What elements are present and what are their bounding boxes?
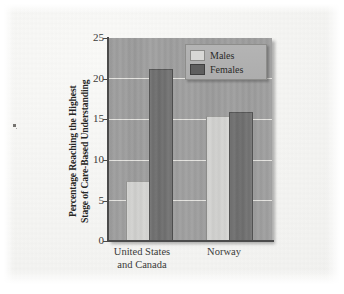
legend-label-females: Females [210,64,243,75]
y-axis-title-line1: Percentage Reaching the Highest [67,48,79,254]
bar-males-united-states-and-canada [126,181,150,241]
legend-swatch-females-icon [190,64,205,75]
legend-entry-females: Females [190,62,262,76]
y-tick-5: 5 [84,194,104,206]
legend-entry-males: Males [190,48,262,62]
chart-legend: Males Females [185,44,267,80]
x-label-us-line2: and Canada [108,259,176,272]
bar-males-norway [206,116,230,241]
y-tick-0: 0 [84,234,104,246]
x-label-united-states-and-canada: United States and Canada [108,246,176,271]
y-axis-line [107,37,109,242]
x-label-norway-line1: Norway [190,246,258,259]
legend-label-males: Males [210,50,234,61]
figure-page: Percentage Reaching the Highest Stage of… [0,0,344,294]
y-tick-10: 10 [84,153,104,165]
legend-swatch-males-icon [190,50,205,61]
y-tick-25: 25 [84,31,104,43]
x-label-us-line1: United States [108,246,176,259]
y-axis-tick-labels: 25 20 15 10 5 0 [82,0,104,294]
x-label-norway: Norway [190,246,258,259]
x-axis-line [107,240,274,242]
bar-chart: Percentage Reaching the Highest Stage of… [0,0,344,294]
bar-females-united-states-and-canada [149,69,173,241]
y-tick-15: 15 [84,112,104,124]
bar-females-norway [229,112,253,241]
y-tick-20: 20 [84,72,104,84]
